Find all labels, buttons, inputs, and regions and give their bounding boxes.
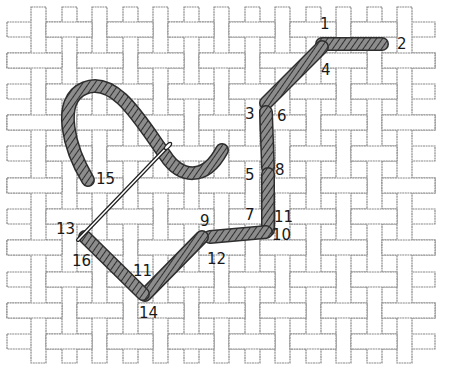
weft-over-segment: [229, 272, 275, 287]
weft-over-segment: [290, 272, 336, 287]
weft-over-segment: [290, 146, 336, 161]
weft-over-segment: [351, 272, 397, 287]
weft-over-segment: [199, 115, 245, 130]
weft-over-segment: [382, 303, 435, 318]
stitch-label-8: 8: [275, 161, 285, 179]
stitch-label-11: 11: [274, 208, 293, 226]
weft-over-segment: [7, 240, 62, 255]
stitch-label-11: 11: [133, 262, 152, 280]
weft-over-segment: [321, 115, 367, 130]
stitch-label-1: 1: [320, 15, 330, 33]
weft-over-segment: [229, 334, 275, 349]
stitch-label-5: 5: [245, 166, 255, 184]
stitch-label-9: 9: [200, 212, 210, 230]
weft-over-segment: [7, 178, 62, 193]
weft-over-segment: [7, 53, 62, 68]
weft-over-segment: [168, 334, 214, 349]
weft-over-segment: [290, 209, 336, 224]
weft-over-segment: [229, 22, 275, 37]
weft-over-segment: [168, 84, 214, 99]
weft-over-segment: [46, 272, 92, 287]
stitch-label-16: 16: [72, 252, 91, 270]
weft-over-segment: [382, 53, 435, 68]
weft-over-segment: [290, 334, 336, 349]
weft-over-segment: [351, 209, 397, 224]
weft-over-segment: [168, 22, 214, 37]
weft-over-segment: [199, 303, 245, 318]
weft-over-segment: [351, 22, 397, 37]
stitch-label-12: 12: [207, 250, 226, 268]
stitch-label-2: 2: [397, 35, 407, 53]
weft-over-segment: [77, 115, 123, 130]
weft-over-segment: [138, 178, 184, 193]
weft-over-segment: [138, 53, 184, 68]
weft-over-segment: [382, 115, 435, 130]
warp-thread: [367, 7, 382, 363]
stitch-label-14: 14: [139, 304, 158, 322]
weft-over-segment: [260, 303, 306, 318]
weft-over-segment: [199, 178, 245, 193]
weft-over-segment: [199, 53, 245, 68]
weft-over-segment: [107, 334, 153, 349]
stitch-label-4: 4: [321, 61, 331, 79]
warp-thread: [245, 7, 260, 363]
weft-over-segment: [107, 22, 153, 37]
stitch-3-6: [266, 112, 268, 168]
stitch-label-13: 13: [56, 220, 75, 238]
weft-over-segment: [351, 146, 397, 161]
stitch-label-6: 6: [277, 107, 287, 125]
stitch-diagram: 1234567891011121113141516: [0, 0, 449, 380]
weft-over-segment: [46, 22, 92, 37]
weft-over-segment: [7, 115, 62, 130]
weft-over-segment: [290, 84, 336, 99]
warp-thread: [62, 7, 77, 363]
weft-over-segment: [321, 240, 367, 255]
stitch-label-15: 15: [96, 170, 115, 188]
stitch-7-10: [210, 232, 266, 237]
weft-over-segment: [351, 84, 397, 99]
stitch-label-3: 3: [245, 105, 255, 123]
weft-over-segment: [77, 303, 123, 318]
weft-over-segment: [107, 209, 153, 224]
weft-over-segment: [77, 53, 123, 68]
weft-over-segment: [382, 240, 435, 255]
weft-over-segment: [107, 146, 153, 161]
weft-over-segment: [321, 178, 367, 193]
weft-over-segment: [321, 303, 367, 318]
weft-over-segment: [7, 303, 62, 318]
weft-over-segment: [351, 334, 397, 349]
stitch-label-7: 7: [245, 206, 255, 224]
warp-thread: [184, 7, 199, 363]
weft-over-segment: [382, 178, 435, 193]
weft-over-segment: [46, 334, 92, 349]
stitch-label-10: 10: [272, 226, 291, 244]
